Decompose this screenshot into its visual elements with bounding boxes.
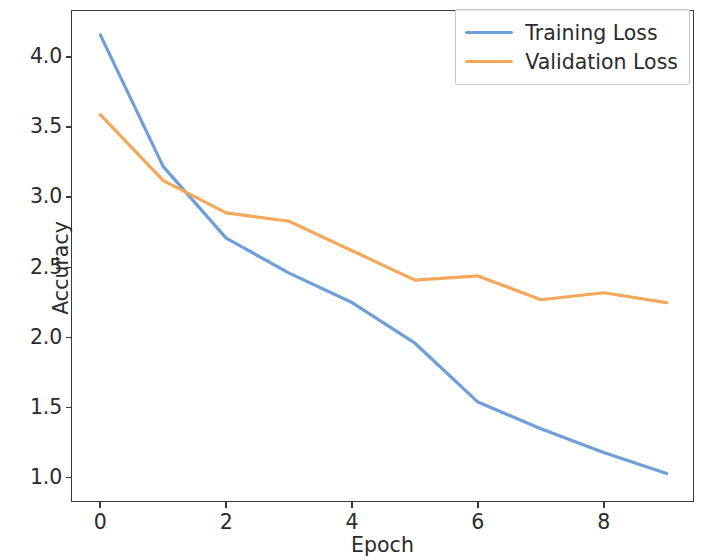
series-line-training-loss <box>100 35 666 474</box>
series-line-validation-loss <box>100 115 666 303</box>
x-tick-label: 2 <box>220 510 233 534</box>
y-tick-mark <box>66 407 73 409</box>
y-axis-label: Accuracy <box>49 168 73 368</box>
x-tick-label: 0 <box>94 510 107 534</box>
x-tick-mark <box>603 501 605 508</box>
y-tick-label: 4.0 <box>30 44 62 68</box>
x-tick-label: 6 <box>471 510 484 534</box>
x-axis-label: Epoch <box>71 533 694 557</box>
y-tick-mark <box>66 126 73 128</box>
x-tick-mark <box>99 501 101 508</box>
legend-label-training-loss: Training Loss <box>525 21 657 45</box>
y-tick-label: 3.5 <box>30 114 62 138</box>
figure-canvas: 1.01.52.02.53.03.54.0 02468 Epoch Accura… <box>0 0 704 560</box>
chart-legend: Training Loss Validation Loss <box>455 9 690 85</box>
x-tick-mark <box>351 501 353 508</box>
x-tick-label: 8 <box>597 510 610 534</box>
legend-item: Training Loss <box>465 18 678 47</box>
x-tick-mark <box>477 501 479 508</box>
legend-swatch-validation-loss <box>465 60 513 63</box>
y-tick-label: 1.5 <box>30 395 62 419</box>
legend-item: Validation Loss <box>465 47 678 76</box>
y-tick-mark <box>66 56 73 58</box>
x-tick-mark <box>225 501 227 508</box>
y-tick-mark <box>66 477 73 479</box>
y-tick-label: 1.0 <box>30 465 62 489</box>
legend-swatch-training-loss <box>465 31 513 34</box>
x-tick-label: 4 <box>346 510 359 534</box>
legend-label-validation-loss: Validation Loss <box>525 50 678 74</box>
